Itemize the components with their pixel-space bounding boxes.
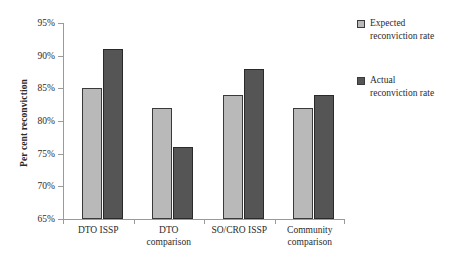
y-axis-tick bbox=[58, 121, 63, 122]
y-axis-tick bbox=[58, 154, 63, 155]
y-axis-tick bbox=[58, 88, 63, 89]
y-axis-tick bbox=[58, 186, 63, 187]
x-axis-category-label: Communitycomparison bbox=[263, 225, 357, 248]
bar-expected bbox=[293, 108, 313, 219]
y-axis-tick-label: 95% bbox=[9, 18, 55, 28]
bar-actual bbox=[103, 49, 123, 219]
x-axis-tick bbox=[134, 219, 135, 224]
y-axis-tick-label: 85% bbox=[9, 83, 55, 93]
bar-group bbox=[223, 23, 264, 219]
y-axis-tick bbox=[58, 23, 63, 24]
bar-actual bbox=[173, 147, 193, 219]
x-axis-tick bbox=[275, 219, 276, 224]
bar-expected bbox=[152, 108, 172, 219]
y-axis-tick-label: 65% bbox=[9, 214, 55, 224]
y-axis-line bbox=[63, 23, 64, 220]
x-axis-tick bbox=[204, 219, 205, 224]
legend-label-actual: Actualreconviction rate bbox=[370, 74, 453, 99]
y-axis-tick-label: 90% bbox=[9, 51, 55, 61]
bar-group bbox=[152, 23, 193, 219]
x-axis-tick bbox=[344, 219, 345, 224]
bar-chart-figure: Per cent reconviction 95%90%85%80%75%70%… bbox=[0, 0, 454, 261]
plot-area: DTO ISSPDTOcomparisonSO/CRO ISSPCommunit… bbox=[63, 23, 345, 220]
legend-label-expected: Expectedreconviction rate bbox=[370, 17, 453, 42]
y-axis-tick bbox=[58, 56, 63, 57]
y-axis-tick-label: 80% bbox=[9, 116, 55, 126]
x-axis-tick bbox=[63, 219, 64, 224]
bar-actual bbox=[314, 95, 334, 219]
bar-expected bbox=[82, 88, 102, 219]
bar-group bbox=[293, 23, 334, 219]
bar-expected bbox=[223, 95, 243, 219]
y-axis-tick-labels: 95%90%85%80%75%70%65% bbox=[9, 23, 55, 220]
legend-swatch-expected bbox=[357, 20, 365, 28]
y-axis-tick-label: 70% bbox=[9, 181, 55, 191]
y-axis-tick-label: 75% bbox=[9, 149, 55, 159]
bar-group bbox=[82, 23, 123, 219]
bar-actual bbox=[244, 69, 264, 219]
legend-swatch-actual bbox=[357, 77, 365, 85]
